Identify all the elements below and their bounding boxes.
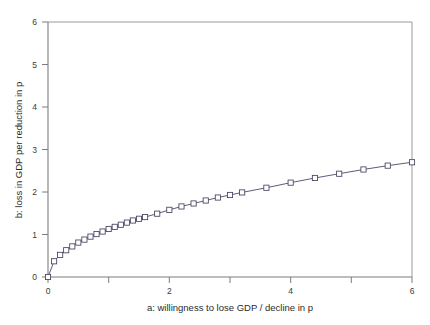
- data-point-marker: [215, 195, 220, 200]
- data-point-marker: [64, 248, 69, 253]
- chart-figure: 0 1 2 3 4 5 6 0 2 4 6 a: willingn: [0, 0, 430, 325]
- data-point-marker: [100, 229, 105, 234]
- data-point-marker: [191, 201, 196, 206]
- data-point-marker: [82, 237, 87, 242]
- y-tick-label: 1: [32, 230, 37, 240]
- x-tick-label: 2: [167, 286, 172, 296]
- x-tick-label: 6: [410, 286, 415, 296]
- data-point-marker: [227, 192, 232, 197]
- data-point-marker: [136, 216, 141, 221]
- data-point-marker: [142, 214, 147, 219]
- data-point-marker: [118, 222, 123, 227]
- y-tick-label: 4: [32, 102, 37, 112]
- data-point-marker: [155, 211, 160, 216]
- chart-svg: 0 1 2 3 4 5 6 0 2 4 6 a: willingn: [0, 0, 430, 325]
- data-point-marker: [124, 220, 129, 225]
- x-axis-title: a: willingness to lose GDP / decline in …: [147, 302, 313, 313]
- data-point-marker: [288, 180, 293, 185]
- data-point-marker: [45, 274, 50, 279]
- data-point-marker: [112, 224, 117, 229]
- data-point-marker: [385, 163, 390, 168]
- y-tick-label: 0: [32, 272, 37, 282]
- data-point-marker: [264, 185, 269, 190]
- data-point-marker: [106, 226, 111, 231]
- y-tick-label: 5: [32, 60, 37, 70]
- data-point-marker: [130, 218, 135, 223]
- data-point-marker: [337, 171, 342, 176]
- data-point-marker: [361, 167, 366, 172]
- data-point-marker: [167, 207, 172, 212]
- x-tick-label: 0: [46, 286, 51, 296]
- y-tick-label: 3: [32, 145, 37, 155]
- figure-background: [0, 0, 430, 325]
- data-point-marker: [94, 231, 99, 236]
- y-tick-label: 2: [32, 187, 37, 197]
- data-point-marker: [88, 234, 93, 239]
- data-point-marker: [312, 175, 317, 180]
- data-point-marker: [58, 252, 63, 257]
- y-tick-label: 6: [32, 17, 37, 27]
- x-tick-label: 4: [288, 286, 293, 296]
- data-point-marker: [240, 190, 245, 195]
- data-point-marker: [203, 198, 208, 203]
- data-point-marker: [76, 240, 81, 245]
- data-point-marker: [70, 244, 75, 249]
- data-point-marker: [179, 204, 184, 209]
- y-axis-title: b: loss in GDP per reduction in p: [13, 82, 24, 219]
- data-point-marker: [51, 259, 56, 264]
- data-point-marker: [409, 160, 414, 165]
